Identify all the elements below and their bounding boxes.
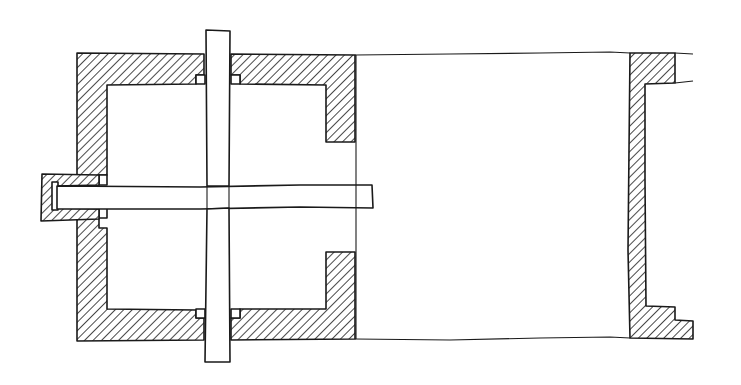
tube-bottom-edge <box>355 337 630 340</box>
seal-bottom-left <box>196 309 205 318</box>
right-flange <box>628 53 693 339</box>
flange-top-edge-ext <box>675 53 693 54</box>
diagram-canvas <box>0 0 741 385</box>
seal-left-upper <box>99 175 107 185</box>
seal-bottom-right <box>231 309 240 318</box>
vertical-shaft-lower <box>205 208 230 362</box>
vertical-shaft-upper <box>206 30 230 186</box>
seal-top-right <box>231 75 240 84</box>
flange-body <box>628 53 693 339</box>
housing-bottom-right-wall <box>231 252 355 340</box>
connecting-tube <box>355 52 630 340</box>
seal-top-left <box>196 75 205 84</box>
tube-top-edge <box>355 52 630 55</box>
cross-section-diagram <box>0 0 741 385</box>
housing-top-left-wall <box>77 53 204 185</box>
flange-inner-edge-ext <box>675 81 693 83</box>
housing-top-right-wall <box>231 54 355 142</box>
horizontal-shaft <box>57 185 373 209</box>
housing-bottom-left-wall <box>77 218 204 341</box>
